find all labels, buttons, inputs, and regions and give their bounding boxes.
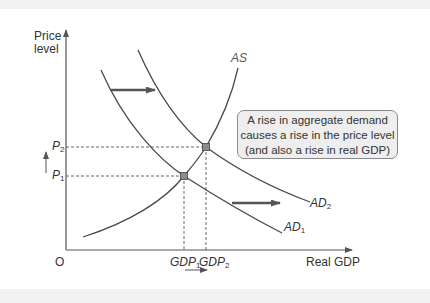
x-axis-label: Real GDP bbox=[306, 256, 360, 269]
equilibrium-point-2 bbox=[203, 144, 210, 151]
callout-line-2: causes a rise in the price level bbox=[238, 128, 397, 143]
p2-label: P2 bbox=[52, 140, 64, 156]
gdp2-label: GDP2 bbox=[199, 256, 229, 272]
callout-line-3: (and also a rise in real GDP) bbox=[238, 143, 397, 158]
guide-lines bbox=[66, 147, 206, 250]
callout-line-1: A rise in aggregate demand bbox=[238, 113, 397, 128]
explanation-callout: A rise in aggregate demand causes a rise… bbox=[237, 110, 398, 159]
ad1-label: AD1 bbox=[284, 221, 305, 237]
y-axis-label-line2: level bbox=[34, 43, 61, 56]
y-axis-label: Price level bbox=[34, 30, 61, 56]
p1-label: P1 bbox=[52, 169, 64, 185]
equilibrium-point-1 bbox=[181, 173, 188, 180]
as-label: AS bbox=[231, 52, 247, 65]
gdp1-label: GDP1 bbox=[170, 256, 200, 272]
origin-label: O bbox=[55, 256, 64, 269]
ad2-label: AD2 bbox=[310, 197, 331, 213]
